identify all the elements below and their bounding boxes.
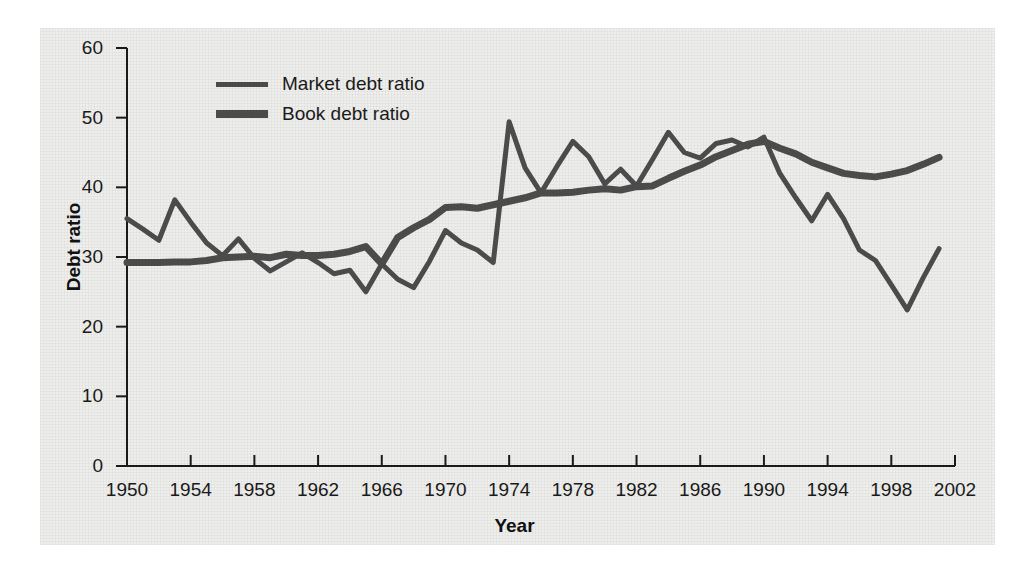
x-tick-label: 1954: [156, 480, 226, 499]
x-tick-label: 1978: [538, 480, 608, 499]
series-line-market-debt-ratio: [127, 122, 939, 310]
x-tick-label: 1998: [856, 480, 926, 499]
chart-figure: 6050403020100 19501954195819621966197019…: [0, 0, 1029, 568]
x-tick-label: 1966: [347, 480, 417, 499]
series-line-book-debt-ratio: [127, 141, 939, 264]
x-tick-label: 1994: [793, 480, 863, 499]
x-axis-title: Year: [0, 515, 1029, 537]
book-line-swatch-icon: [216, 110, 268, 118]
x-tick-label: 1974: [474, 480, 544, 499]
y-tick-label: 50: [57, 108, 103, 127]
x-tick-label: 1990: [729, 480, 799, 499]
legend-item-market: Market debt ratio: [216, 69, 425, 99]
x-tick-label: 1970: [410, 480, 480, 499]
legend-label-market: Market debt ratio: [282, 73, 425, 95]
x-tick-label: 1958: [219, 480, 289, 499]
x-tick-label: 1986: [665, 480, 735, 499]
x-tick-label: 1962: [283, 480, 353, 499]
x-tick-label: 1982: [602, 480, 672, 499]
legend-item-book: Book debt ratio: [216, 99, 425, 129]
chart-legend: Market debt ratio Book debt ratio: [216, 69, 425, 129]
market-line-swatch-icon: [216, 82, 268, 87]
y-tick-label: 60: [57, 38, 103, 57]
x-tick-label: 2002: [920, 480, 990, 499]
y-tick-label: 10: [57, 386, 103, 405]
y-axis-title: Debt ratio: [63, 167, 85, 327]
y-tick-label: 0: [57, 456, 103, 475]
legend-label-book: Book debt ratio: [282, 103, 410, 125]
x-tick-label: 1950: [92, 480, 162, 499]
